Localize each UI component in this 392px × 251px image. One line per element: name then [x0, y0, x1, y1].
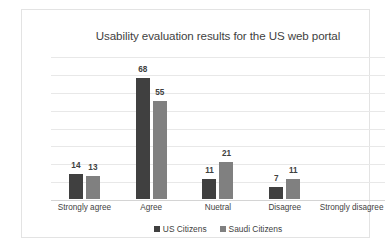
- category-label: Agree: [118, 203, 185, 212]
- bar-saudi-citizens[interactable]: 21: [219, 162, 233, 199]
- bar-us-citizens[interactable]: 11: [202, 179, 216, 199]
- bar-value-label: 11: [289, 166, 298, 175]
- category-label: Nuetral: [185, 203, 252, 212]
- bar-us-citizens[interactable]: 7: [269, 187, 283, 199]
- bar-pair: 711: [251, 57, 318, 199]
- axis-baseline: [51, 200, 385, 201]
- category-axis: Strongly agreeAgreeNuetralDisagreeStrong…: [51, 203, 385, 217]
- bar-value-label: 7: [274, 174, 279, 183]
- bar-pair: 1121: [185, 57, 252, 199]
- bar-value-label: 11: [205, 166, 214, 175]
- bar-us-citizens[interactable]: 14: [69, 174, 83, 199]
- bars-layer: 141368551121711: [51, 57, 385, 199]
- bar-value-label: 21: [222, 149, 231, 158]
- bar-us-citizens[interactable]: 68: [136, 78, 150, 199]
- bar-saudi-citizens[interactable]: 11: [286, 179, 300, 199]
- bar-pair: 1413: [51, 57, 118, 199]
- bar-value-label: 13: [88, 163, 97, 172]
- bar-pair: 6855: [118, 57, 185, 199]
- chart-title: Usability evaluation results for the US …: [22, 29, 392, 42]
- chart-legend: US CitizensSaudi Citizens: [22, 224, 392, 234]
- legend-item-us-citizens[interactable]: US Citizens: [154, 224, 207, 234]
- bar-saudi-citizens[interactable]: 13: [86, 176, 100, 199]
- bar-group: 6855: [118, 57, 185, 199]
- legend-swatch-icon: [154, 226, 160, 232]
- bar-group: 711: [251, 57, 318, 199]
- category-label: Strongly agree: [51, 203, 118, 212]
- bar-value-label: 55: [155, 88, 164, 97]
- legend-label: US Citizens: [163, 224, 207, 234]
- legend-item-saudi-citizens[interactable]: Saudi Citizens: [220, 224, 283, 234]
- bar-value-label: 14: [71, 161, 80, 170]
- bar-group: 1413: [51, 57, 118, 199]
- legend-label: Saudi Citizens: [229, 224, 283, 234]
- bar-pair: [318, 57, 385, 199]
- category-label: Strongly disagree: [318, 203, 385, 212]
- bar-saudi-citizens[interactable]: 55: [153, 101, 167, 199]
- chart-frame: Usability evaluation results for the US …: [21, 9, 370, 238]
- bar-group: 1121: [185, 57, 252, 199]
- bar-value-label: 68: [138, 65, 147, 74]
- bar-group: [318, 57, 385, 199]
- category-label: Disagree: [251, 203, 318, 212]
- legend-swatch-icon: [220, 226, 226, 232]
